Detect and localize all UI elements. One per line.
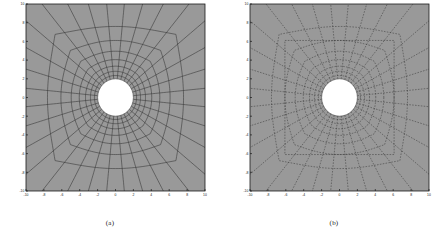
svg-text:-6: -6 xyxy=(60,193,63,197)
svg-text:4: 4 xyxy=(374,193,376,197)
svg-text:-2: -2 xyxy=(21,115,24,119)
svg-text:-4: -4 xyxy=(78,193,81,197)
panel-b-caption: (b) xyxy=(236,219,432,227)
svg-text:-6: -6 xyxy=(284,193,287,197)
panel-a-caption: (a) xyxy=(12,219,208,227)
svg-text:4: 4 xyxy=(247,58,249,62)
svg-text:10: 10 xyxy=(427,193,431,197)
svg-text:6: 6 xyxy=(392,193,394,197)
svg-text:-2: -2 xyxy=(320,193,323,197)
panel-b-mesh-plot: -10-8-6-4-202468101086420-2-4-6-8-10 xyxy=(236,0,432,206)
svg-text:-8: -8 xyxy=(42,193,45,197)
figure-container: -10-8-6-4-202468101086420-2-4-6-8-10 -10… xyxy=(0,0,443,235)
svg-text:10: 10 xyxy=(203,193,207,197)
svg-text:4: 4 xyxy=(23,58,25,62)
svg-text:2: 2 xyxy=(247,77,249,81)
svg-text:2: 2 xyxy=(132,193,134,197)
svg-text:-8: -8 xyxy=(21,171,24,175)
svg-text:10: 10 xyxy=(245,2,249,6)
svg-text:0: 0 xyxy=(247,96,249,100)
svg-text:0: 0 xyxy=(339,193,341,197)
svg-text:2: 2 xyxy=(23,77,25,81)
svg-text:-10: -10 xyxy=(248,193,253,197)
svg-text:6: 6 xyxy=(23,40,25,44)
svg-text:-10: -10 xyxy=(243,189,248,193)
svg-text:-10: -10 xyxy=(24,193,29,197)
svg-text:-4: -4 xyxy=(302,193,305,197)
svg-text:0: 0 xyxy=(115,193,117,197)
svg-text:2: 2 xyxy=(356,193,358,197)
svg-text:-4: -4 xyxy=(21,133,24,137)
svg-text:-4: -4 xyxy=(245,133,248,137)
svg-text:0: 0 xyxy=(23,96,25,100)
panel-a-mesh-plot: -10-8-6-4-202468101086420-2-4-6-8-10 xyxy=(12,0,208,206)
svg-text:-8: -8 xyxy=(266,193,269,197)
svg-text:8: 8 xyxy=(247,21,249,25)
svg-text:4: 4 xyxy=(150,193,152,197)
svg-text:8: 8 xyxy=(410,193,412,197)
svg-text:-8: -8 xyxy=(245,171,248,175)
svg-text:-2: -2 xyxy=(96,193,99,197)
svg-text:-2: -2 xyxy=(245,115,248,119)
svg-text:8: 8 xyxy=(23,21,25,25)
svg-text:6: 6 xyxy=(168,193,170,197)
svg-text:-10: -10 xyxy=(19,189,24,193)
svg-text:-6: -6 xyxy=(21,152,24,156)
svg-text:6: 6 xyxy=(247,40,249,44)
svg-text:-6: -6 xyxy=(245,152,248,156)
svg-text:8: 8 xyxy=(186,193,188,197)
svg-text:10: 10 xyxy=(21,2,25,6)
